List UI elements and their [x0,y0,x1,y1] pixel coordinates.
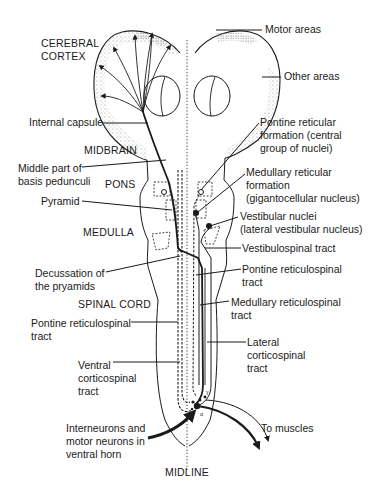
motor-area-stipple [215,32,258,44]
interneurons-pointer-arrow [148,414,192,438]
internal-capsule-label: Internal capsule [29,116,103,129]
interneurons-label: Interneurons and motor neurons in ventra… [66,422,145,461]
vestibulospinal-tract-label: Vestibulospinal tract [242,242,335,255]
pontine-reticular-nucleus [199,190,204,195]
spinal-cord-label: SPINAL CORD [78,298,151,311]
ventral-horn-neurons: γ α [191,389,209,417]
pontine-reticular-formation-label: Pontine reticular formation (central gro… [260,116,342,155]
pontine-reticulospinal-right-label: Pontine reticulospinal tract [242,263,342,289]
gamma-symbol: γ [205,389,209,395]
vestibular-nuclei-label: Vestibular nuclei (lateral vestibular nu… [240,210,363,236]
midbrain-label: MIDBRAIN [84,144,137,157]
corticospinal-fibers [100,34,182,252]
medullary-reticulospinal-label: Medullary reticulospinal tract [231,296,341,322]
other-areas-label: Other areas [284,70,339,83]
right-ventricle [194,76,230,116]
motor-areas-label: Motor areas [265,23,321,36]
basis-pedunculi-label: Middle part of basis pedunculi [18,162,90,188]
nuclei-outlines [152,182,220,250]
midline-label: MIDLINE [165,466,209,479]
alpha-symbol: α [200,411,204,417]
medulla-label: MEDULLA [83,226,134,239]
medullary-reticular-formation-label: Medullary reticular formation (gigantoce… [246,166,360,205]
ventral-corticospinal-tract [178,170,192,412]
pons-label: PONS [105,178,136,191]
ventral-corticospinal-label: Ventral corticospinal tract [78,359,136,398]
pontine-reticulospinal-left-label: Pontine reticulospinal tract [31,317,131,343]
to-muscles-label: To muscles [261,422,314,435]
cerebral-cortex-label: CEREBRAL CORTEX [41,37,99,63]
lateral-corticospinal-tract [180,250,205,404]
pyramid-label: Pyramid [41,195,80,208]
left-pontine-nucleus [162,190,167,195]
lateral-corticospinal-label: Lateral corticospinal tract [247,336,305,375]
decussation-label: Decussation of the pryamids [35,267,104,293]
